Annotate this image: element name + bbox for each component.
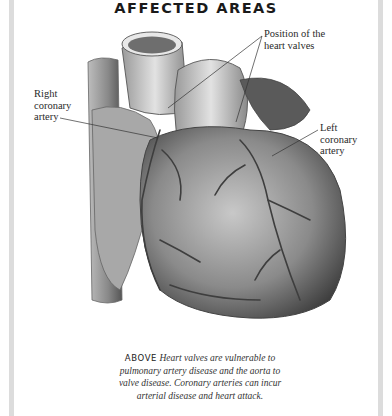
label-line: Left xyxy=(320,122,357,134)
label-line: artery xyxy=(34,111,71,123)
label-line: coronary xyxy=(320,134,357,146)
caption-lead: ABOVE xyxy=(125,353,157,363)
heart-illustration xyxy=(0,0,392,330)
label-line: Position of the xyxy=(264,28,325,40)
label-line: Right xyxy=(34,88,71,100)
label-left-coronary-artery: Left coronary artery xyxy=(320,122,357,157)
label-line: heart valves xyxy=(264,40,325,52)
label-line: artery xyxy=(320,145,357,157)
label-line: coronary xyxy=(34,100,71,112)
figure-caption: ABOVE Heart valves are vulnerable to pul… xyxy=(110,352,290,402)
label-right-coronary-artery: Right coronary artery xyxy=(34,88,71,123)
label-heart-valves: Position of the heart valves xyxy=(264,28,325,51)
